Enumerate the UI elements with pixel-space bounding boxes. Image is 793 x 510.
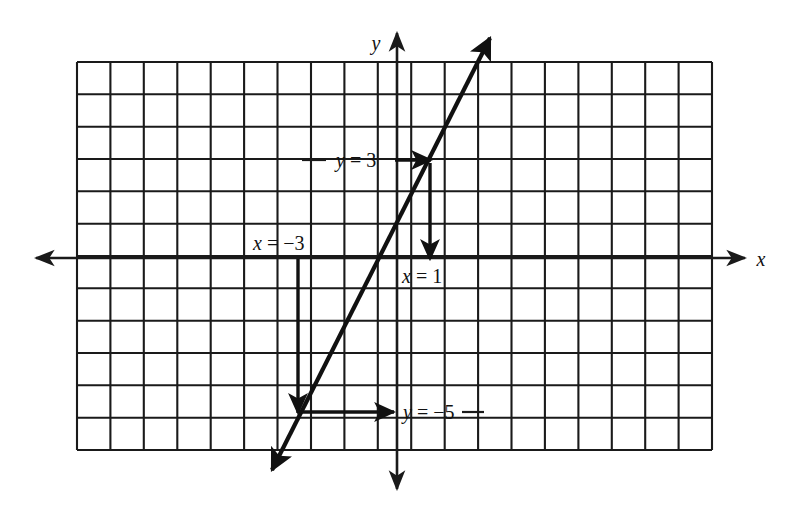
annotation-x-equals-1: x = 1 (401, 163, 442, 287)
axes (36, 33, 745, 489)
y-equals-3-value: 3 (366, 149, 376, 171)
x-equals-minus-3-relation: = (262, 232, 283, 254)
x-equals-1-label: x = 1 (401, 265, 442, 287)
y-equals-3-label: y = 3 (334, 149, 376, 172)
x-equals-minus-3-variable: x (252, 232, 262, 254)
x-equals-1-variable: x (401, 265, 411, 287)
y-equals-3-variable: y (334, 149, 345, 172)
y-axis-label: y (370, 32, 381, 55)
annotation-y-equals-minus-5: y = −5 (299, 401, 484, 424)
y-equals-minus-5-label: y = −5 (401, 401, 454, 424)
y-equals-minus-5-value: −5 (433, 401, 454, 423)
y-equals-minus-5-relation: = (412, 401, 433, 423)
coordinate-grid (77, 62, 712, 450)
graph-canvas: x y y = 3 x = 1 x = −3 (0, 0, 793, 510)
x-equals-minus-3-label: x = −3 (252, 232, 304, 254)
y-equals-minus-5-variable: y (401, 401, 412, 424)
plotted-line (272, 38, 490, 470)
x-axis-label: x (756, 248, 766, 270)
x-equals-1-relation: = (411, 265, 432, 287)
y-equals-3-relation: = (345, 149, 366, 171)
graph-figure: x y y = 3 x = 1 x = −3 (0, 0, 793, 510)
x-equals-minus-3-value: −3 (283, 232, 304, 254)
x-equals-1-value: 1 (432, 265, 442, 287)
